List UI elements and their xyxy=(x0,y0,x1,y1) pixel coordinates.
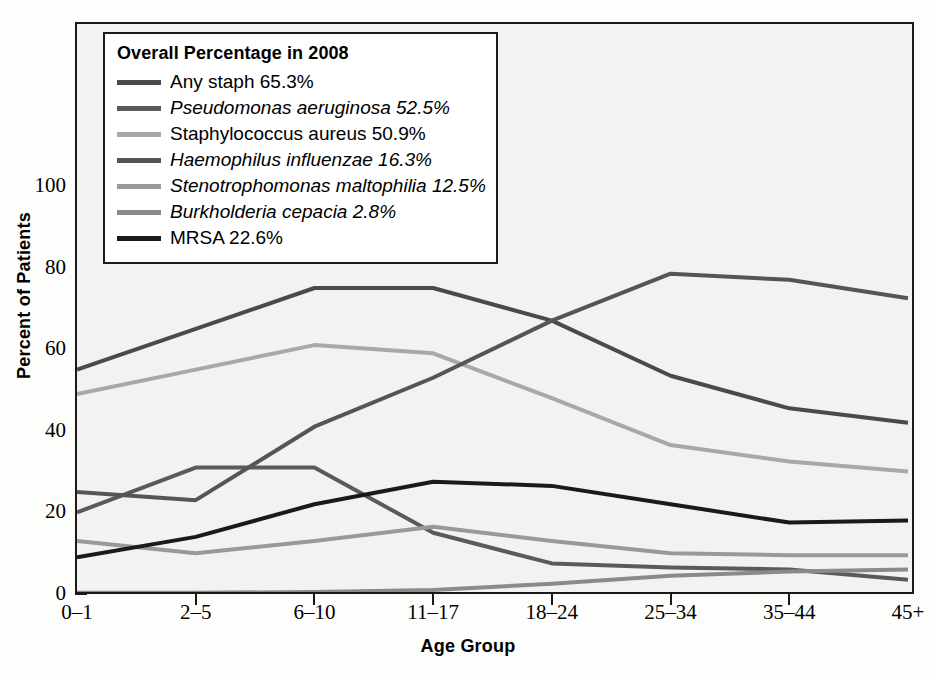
legend-color-swatch xyxy=(117,184,161,189)
series-line xyxy=(77,527,908,556)
y-axis-tick-label: 40 xyxy=(10,420,66,441)
legend-item: Pseudomonas aeruginosa 52.5% xyxy=(117,95,484,121)
legend-item: Any staph 65.3% xyxy=(117,69,484,95)
legend-item-label: MRSA 22.6% xyxy=(170,227,283,249)
series-line xyxy=(77,482,908,557)
legend-item-label: Stenotrophomonas maltophilia 12.5% xyxy=(170,175,486,197)
legend-item-label: Haemophilus influenzae 16.3% xyxy=(170,149,432,171)
x-axis-tick-label: 0–1 xyxy=(22,600,132,625)
y-axis-label: Percent of Patients xyxy=(14,176,35,416)
legend-item-label: Any staph 65.3% xyxy=(170,71,314,93)
legend-entries: Any staph 65.3%Pseudomonas aeruginosa 52… xyxy=(117,69,484,251)
series-line xyxy=(77,288,908,423)
x-axis-tick-label: 45+ xyxy=(853,600,936,625)
legend: Overall Percentage in 2008 Any staph 65.… xyxy=(103,32,498,264)
legend-item-label: Burkholderia cepacia 2.8% xyxy=(170,201,396,223)
x-axis-tick-label: 2–5 xyxy=(141,600,251,625)
legend-item-label: Pseudomonas aeruginosa 52.5% xyxy=(170,97,450,119)
x-axis-tick-label: 11–17 xyxy=(378,600,488,625)
legend-item-label: Staphylococcus aureus 50.9% xyxy=(170,123,426,145)
legend-title: Overall Percentage in 2008 xyxy=(117,43,484,64)
y-axis-tick-label: 20 xyxy=(10,501,66,522)
legend-color-swatch xyxy=(117,158,161,163)
legend-color-swatch xyxy=(117,236,161,241)
x-axis-label: Age Group xyxy=(0,636,936,657)
legend-color-swatch xyxy=(117,80,161,85)
series-line xyxy=(77,570,908,592)
legend-color-swatch xyxy=(117,132,161,137)
legend-item: Staphylococcus aureus 50.9% xyxy=(117,121,484,147)
x-axis-tick-label: 25–34 xyxy=(616,600,726,625)
x-axis-tick-label: 35–44 xyxy=(734,600,844,625)
legend-color-swatch xyxy=(117,210,161,215)
x-axis-tick-label: 18–24 xyxy=(497,600,607,625)
figure: 020406080100 Percent of Patients 0–12–56… xyxy=(0,0,936,673)
x-axis-tick-label: 6–10 xyxy=(259,600,369,625)
legend-item: Haemophilus influenzae 16.3% xyxy=(117,147,484,173)
legend-item: Stenotrophomonas maltophilia 12.5% xyxy=(117,173,484,199)
legend-item: Burkholderia cepacia 2.8% xyxy=(117,199,484,225)
legend-item: MRSA 22.6% xyxy=(117,225,484,251)
legend-color-swatch xyxy=(117,106,161,111)
